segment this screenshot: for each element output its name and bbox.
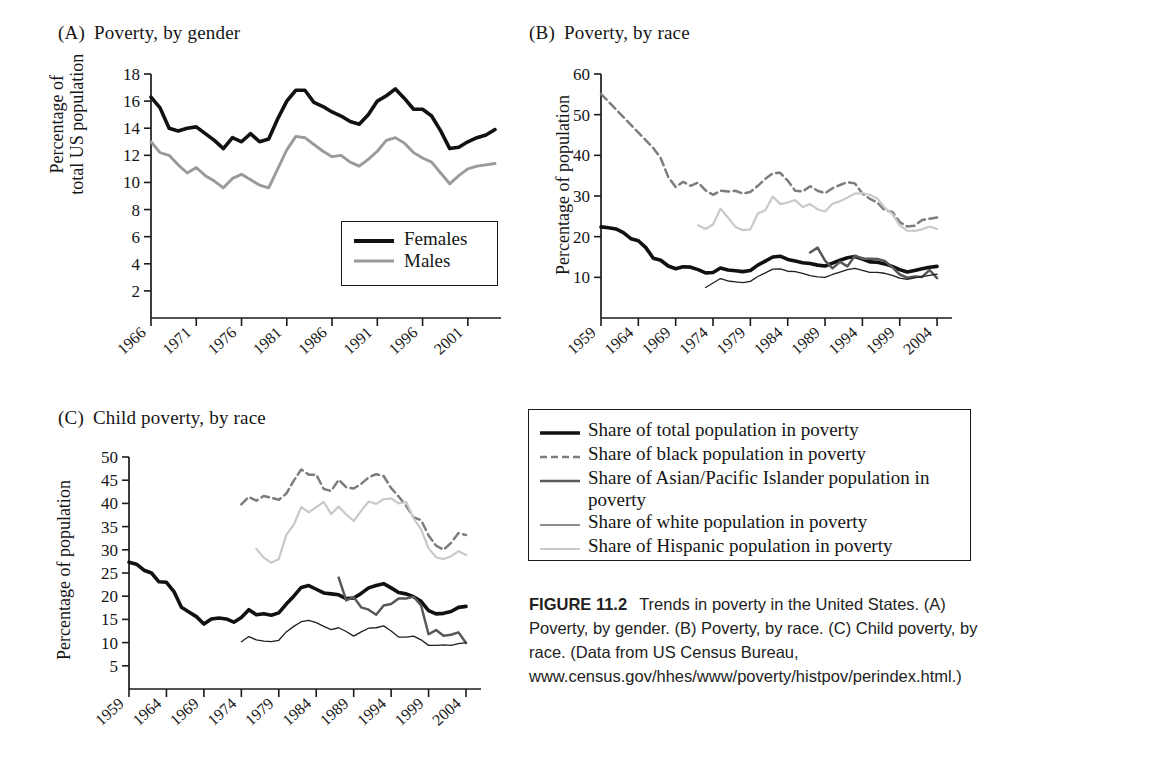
panel-a-legend-label-males: Males <box>404 250 450 272</box>
legend-line-white-icon <box>537 511 583 535</box>
panel-a-legend-row-females: Females <box>342 227 497 250</box>
legend-label-hispanic: Share of Hispanic population in poverty <box>588 535 892 557</box>
svg-text:40: 40 <box>573 146 590 165</box>
svg-text:20: 20 <box>101 587 118 606</box>
figure-caption-label: FIGURE 11.2 <box>529 595 627 613</box>
svg-text:1996: 1996 <box>385 324 420 358</box>
panel-c: (C)Child poverty, by race Percentage of … <box>0 395 520 780</box>
svg-text:15: 15 <box>101 610 118 629</box>
svg-text:8: 8 <box>132 201 141 220</box>
svg-text:40: 40 <box>101 494 118 513</box>
svg-text:1979: 1979 <box>242 695 277 729</box>
svg-text:30: 30 <box>101 541 118 560</box>
svg-text:1981: 1981 <box>250 324 285 358</box>
svg-text:1974: 1974 <box>204 695 239 729</box>
svg-text:1984: 1984 <box>279 695 314 729</box>
legend-label-black: Share of black population in poverty <box>588 443 866 465</box>
panel-a: (A)Poverty, by gender Percentage of tota… <box>0 0 520 380</box>
legend-item-asian: Share of Asian/Pacific Islander populati… <box>529 467 970 511</box>
svg-text:5: 5 <box>110 657 119 676</box>
shared-legend: Share of total population in poverty Sha… <box>528 409 971 561</box>
legend-item-total: Share of total population in poverty <box>529 419 970 443</box>
panel-a-legend-label-females: Females <box>404 228 467 250</box>
svg-text:10: 10 <box>573 268 590 287</box>
svg-text:1971: 1971 <box>159 324 194 358</box>
legend-item-black: Share of black population in poverty <box>529 443 970 467</box>
legend-line-males <box>352 250 396 272</box>
svg-text:45: 45 <box>101 471 118 490</box>
svg-text:1984: 1984 <box>751 324 786 358</box>
svg-text:4: 4 <box>132 255 141 274</box>
legend-label-asian: Share of Asian/Pacific Islander populati… <box>588 467 948 511</box>
svg-text:12: 12 <box>123 146 140 165</box>
svg-text:2001: 2001 <box>431 324 466 358</box>
svg-text:1969: 1969 <box>639 324 674 358</box>
svg-text:30: 30 <box>573 187 590 206</box>
svg-text:1999: 1999 <box>863 324 898 358</box>
figure-caption: FIGURE 11.2Trends in poverty in the Unit… <box>529 592 979 688</box>
legend-line-black-icon <box>537 443 583 467</box>
svg-text:1986: 1986 <box>295 324 330 358</box>
svg-text:1979: 1979 <box>713 324 748 358</box>
svg-text:1974: 1974 <box>676 324 711 358</box>
svg-text:1999: 1999 <box>391 695 426 729</box>
panel-a-plot: 2468101214161819661971197619811986199119… <box>0 0 520 380</box>
svg-text:10: 10 <box>101 634 118 653</box>
svg-text:1969: 1969 <box>167 695 202 729</box>
svg-text:1959: 1959 <box>564 324 599 358</box>
panel-a-legend: Females Males <box>341 221 498 286</box>
svg-text:50: 50 <box>573 106 590 125</box>
svg-text:14: 14 <box>123 119 141 138</box>
svg-text:10: 10 <box>123 173 140 192</box>
legend-item-hispanic: Share of Hispanic population in poverty <box>529 535 970 559</box>
svg-text:25: 25 <box>101 564 118 583</box>
legend-line-females <box>352 228 396 250</box>
legend-label-total: Share of total population in poverty <box>588 419 859 441</box>
svg-text:1994: 1994 <box>825 324 860 358</box>
svg-text:1959: 1959 <box>92 695 127 729</box>
svg-text:2004: 2004 <box>900 324 935 358</box>
legend-label-white: Share of white population in poverty <box>588 511 867 533</box>
svg-text:20: 20 <box>573 228 590 247</box>
svg-text:1966: 1966 <box>114 324 149 358</box>
svg-text:1964: 1964 <box>129 695 164 729</box>
svg-text:18: 18 <box>123 65 140 84</box>
legend-line-asian-icon <box>537 467 583 491</box>
svg-text:1964: 1964 <box>601 324 636 358</box>
svg-text:1994: 1994 <box>354 695 389 729</box>
svg-text:6: 6 <box>132 228 141 247</box>
svg-text:35: 35 <box>101 518 118 537</box>
svg-text:60: 60 <box>573 65 590 84</box>
panel-c-plot: 5101520253035404550195919641969197419791… <box>0 395 520 780</box>
panel-a-legend-row-males: Males <box>342 250 497 272</box>
svg-text:2: 2 <box>132 282 141 301</box>
svg-text:1989: 1989 <box>317 695 352 729</box>
svg-text:16: 16 <box>123 92 140 111</box>
svg-text:2004: 2004 <box>429 695 464 729</box>
legend-line-hispanic-icon <box>537 535 583 559</box>
panel-b-plot: 1020304050601959196419691974197919841989… <box>520 0 1159 380</box>
svg-text:1976: 1976 <box>204 324 239 358</box>
legend-item-white: Share of white population in poverty <box>529 511 970 535</box>
legend-line-total-icon <box>537 419 583 443</box>
panel-b: (B)Poverty, by race Percentage of popula… <box>520 0 1159 380</box>
svg-text:50: 50 <box>101 448 118 467</box>
svg-text:1991: 1991 <box>340 324 375 358</box>
svg-text:1989: 1989 <box>788 324 823 358</box>
